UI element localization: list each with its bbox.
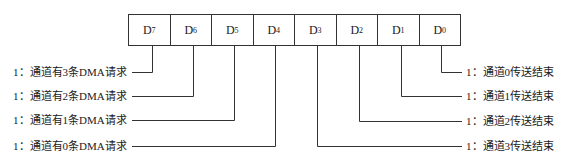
label-channel2-done: 1：通道2传送结束	[466, 115, 554, 127]
connector-lines	[0, 0, 561, 160]
label-channel1-done: 1：通道1传送结束	[466, 90, 554, 102]
label-3-dma-requests: 1：通道有3条DMA请求	[13, 66, 127, 78]
connector-d1	[402, 46, 463, 97]
label-0-dma-requests: 1：通道有0条DMA请求	[13, 140, 127, 152]
label-channel0-done: 1：通道0传送结束	[466, 66, 554, 78]
label-1-dma-requests: 1：通道有1条DMA请求	[13, 114, 127, 126]
status-register-diagram: D7 D6 D5 D4 D3 D2 D1 D0 1：通道有3条DMA请求	[0, 0, 561, 160]
connector-d7	[132, 46, 153, 73]
connector-d6	[132, 46, 194, 97]
connector-d5	[132, 46, 235, 121]
label-channel3-done: 1：通道3传送结束	[466, 140, 554, 152]
connector-d0	[442, 46, 463, 73]
label-2-dma-requests: 1：通道有2条DMA请求	[13, 90, 127, 102]
connector-d2	[360, 46, 463, 122]
